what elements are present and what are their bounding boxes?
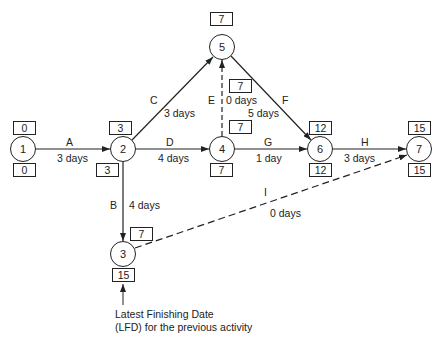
node-7-earliest-box: 15 [408, 121, 431, 135]
activity-A-duration: 3 days [57, 152, 88, 164]
node-5-latest-box: 7 [229, 79, 252, 93]
node-6-earliest-box: 12 [309, 121, 332, 135]
activity-D-name: D [166, 136, 174, 148]
node-6: 6 [307, 136, 333, 162]
node-5-earliest-box: 7 [210, 12, 233, 26]
activity-I-name: I [264, 186, 267, 198]
node-4: 4 [209, 136, 235, 162]
activity-E-duration: 0 days [226, 94, 257, 106]
activity-A-name: A [66, 136, 73, 148]
lfd-annotation-line2: (LFD) for the previous activity [115, 321, 252, 334]
activity-C-name: C [150, 94, 158, 106]
activity-G-name: G [264, 136, 272, 148]
node-2: 2 [110, 136, 136, 162]
activity-C-duration: 3 days [164, 107, 195, 119]
node-1-latest-box: 0 [13, 163, 36, 177]
node-7: 7 [406, 136, 432, 162]
activity-G-duration: 1 day [256, 152, 282, 164]
lfd-annotation-line1: Latest Finishing Date [115, 308, 214, 321]
node-3-earliest-box: 7 [130, 227, 153, 241]
activity-F-name: F [282, 94, 288, 106]
node-3: 3 [110, 241, 136, 267]
activity-H-name: H [361, 136, 369, 148]
activity-F-duration: 5 days [248, 107, 279, 119]
activity-D-duration: 4 days [158, 152, 189, 164]
edge-C [132, 57, 213, 140]
activity-I-duration: 0 days [270, 207, 301, 219]
node-5: 5 [209, 34, 235, 60]
node-1: 1 [10, 136, 36, 162]
node-2-latest-box: 3 [96, 163, 119, 177]
node-2-earliest-box: 3 [109, 121, 132, 135]
activity-B-name: B [110, 199, 117, 211]
activity-B-duration: 4 days [129, 199, 160, 211]
node-6-latest-box: 12 [309, 163, 332, 177]
node-4-latest-box: 7 [210, 163, 233, 177]
node-7-latest-box: 15 [408, 163, 431, 177]
activity-E-name: E [208, 94, 215, 106]
activity-H-duration: 3 days [344, 152, 375, 164]
node-4-earliest-box: 7 [229, 120, 252, 134]
node-1-earliest-box: 0 [13, 121, 36, 135]
edge-I [135, 155, 407, 248]
node-3-latest-box: 15 [112, 268, 135, 282]
